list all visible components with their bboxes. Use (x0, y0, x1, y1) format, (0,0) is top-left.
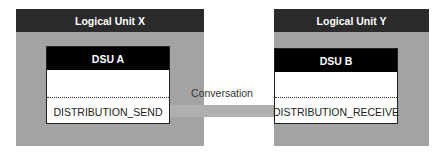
dsu-b-function: DISTRIBUTION_RECEIVE (275, 99, 397, 124)
dsu-b: DSU B DISTRIBUTION_RECEIVE (274, 48, 398, 124)
logical-unit-x-title: Logical Unit X (16, 9, 204, 32)
dsu-a-function: DISTRIBUTION_SEND (47, 99, 169, 124)
conversation-label: Conversation (170, 87, 274, 99)
logical-unit-y: Logical Unit Y DSU B DISTRIBUTION_RECEIV… (274, 9, 429, 146)
dsu-a-divider (47, 97, 169, 98)
dsu-b-title: DSU B (275, 49, 397, 72)
dsu-a: DSU A DISTRIBUTION_SEND (46, 46, 170, 124)
dsu-b-divider (275, 97, 397, 98)
logical-unit-x: Logical Unit X DSU A DISTRIBUTION_SEND (16, 9, 204, 146)
dsu-a-title: DSU A (47, 47, 169, 70)
logical-unit-y-title: Logical Unit Y (274, 9, 429, 32)
conversation-connector (170, 105, 274, 117)
